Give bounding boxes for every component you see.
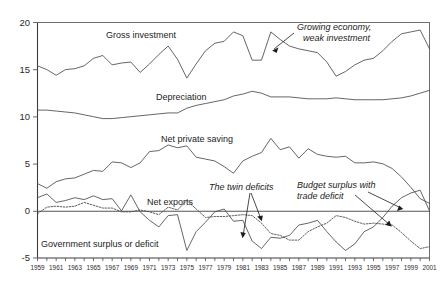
x-tick-label-1993: 1993	[348, 264, 363, 271]
annotation-budget-surplus-leader-a	[368, 192, 401, 208]
series-path-gross-investment	[38, 30, 430, 78]
annotation-twin-deficits-arrowhead-a	[240, 232, 245, 238]
x-axis-tick-labels: 1959196119631965196719691971197319751977…	[30, 264, 437, 271]
x-tick-label-1985: 1985	[273, 264, 288, 271]
x-tick-label-1963: 1963	[68, 264, 83, 271]
x-tick-label-1967: 1967	[105, 264, 120, 271]
annotation-growing-economy-line2: weak investment	[303, 33, 371, 43]
economic-time-series-chart: 20 15 10 5 0 -5 195919611963196519671969…	[0, 0, 442, 284]
y-tick-label-0: 0	[25, 205, 30, 216]
y-tick-label-5: 5	[25, 158, 30, 169]
chart-container: 20 15 10 5 0 -5 195919611963196519671969…	[0, 0, 442, 284]
series-label-net-exports: Net exports	[147, 197, 194, 207]
annotation-twin-deficits-arrowhead-b	[257, 215, 263, 221]
annotation-twin-deficits-text: The twin deficits	[209, 182, 274, 192]
x-tick-label-1961: 1961	[49, 264, 64, 271]
x-tick-label-1973: 1973	[161, 264, 176, 271]
series-label-gross-investment: Gross investment	[106, 30, 177, 40]
data-series-group	[38, 30, 430, 250]
series-path-depreciation	[38, 90, 430, 118]
annotation-twin-deficits-leader-b	[251, 193, 261, 219]
x-tick-label-1959: 1959	[30, 264, 45, 271]
y-tick-label-15: 15	[19, 64, 30, 75]
annotation-growing-economy-line1: Growing economy,	[297, 22, 371, 32]
series-label-net-private-saving: Net private saving	[161, 134, 233, 144]
x-tick-label-1969: 1969	[124, 264, 139, 271]
x-tick-label-1997: 1997	[385, 264, 400, 271]
x-tick-label-1999: 1999	[404, 264, 419, 271]
x-tick-label-1987: 1987	[292, 264, 307, 271]
x-tick-label-1995: 1995	[366, 264, 381, 271]
annotation-budget-surplus-leader-b	[355, 195, 390, 225]
annotation-the-twin-deficits: The twin deficits	[209, 182, 274, 238]
x-tick-label-1979: 1979	[217, 264, 232, 271]
annotation-budget-surplus-line1: Budget surplus with	[297, 180, 376, 190]
annotation-budget-surplus-line2: trade deficit	[297, 191, 344, 201]
y-axis-ticks: 20 15 10 5 0 -5	[19, 17, 37, 264]
series-label-depreciation: Depreciation	[156, 92, 207, 102]
y-tick-label-10: 10	[19, 111, 30, 122]
x-tick-label-1983: 1983	[254, 264, 269, 271]
x-tick-label-1971: 1971	[142, 264, 157, 271]
x-tick-label-1981: 1981	[236, 264, 251, 271]
x-tick-label-1977: 1977	[198, 264, 213, 271]
series-label-government-surplus-or-deficit: Government surplus or deficit	[41, 239, 159, 249]
x-tick-label-1991: 1991	[329, 264, 344, 271]
annotation-growing-economy-weak-investment: Growing economy, weak investment	[272, 22, 371, 53]
series-inline-labels: Gross investment Depreciation Net privat…	[41, 30, 233, 249]
x-tick-label-1989: 1989	[310, 264, 325, 271]
annotation-twin-deficits-leader-a	[243, 193, 250, 236]
y-tick-label-20: 20	[19, 17, 30, 28]
x-tick-label-1965: 1965	[86, 264, 101, 271]
y-tick-label-neg5: -5	[22, 252, 30, 263]
x-tick-label-2001: 2001	[422, 264, 437, 271]
x-tick-label-1975: 1975	[180, 264, 195, 271]
